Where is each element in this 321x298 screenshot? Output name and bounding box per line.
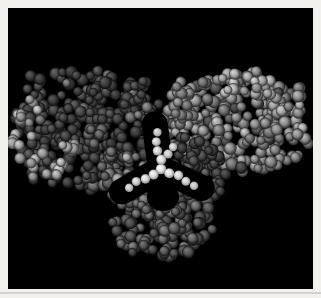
molecule-rendering	[0, 0, 321, 298]
micrograph-panel	[0, 0, 321, 298]
